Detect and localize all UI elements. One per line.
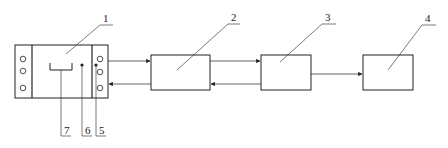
label-3: 3 bbox=[325, 11, 331, 23]
label-2: 2 bbox=[231, 11, 237, 23]
left-terminal-strip bbox=[20, 56, 26, 91]
component-2-block: 2 bbox=[151, 11, 240, 90]
bracket-element-7 bbox=[50, 63, 72, 70]
label-4: 4 bbox=[425, 12, 431, 24]
leader-1: 1 bbox=[66, 12, 113, 54]
label-7: 7 bbox=[64, 124, 70, 136]
leader-6: 6 bbox=[82, 65, 92, 136]
component-1-device bbox=[15, 45, 108, 98]
component-3-block: 3 bbox=[261, 11, 336, 90]
right-terminal-strip bbox=[97, 56, 103, 91]
label-1: 1 bbox=[103, 12, 109, 24]
leader-7: 7 bbox=[61, 70, 71, 136]
component-4-block: 4 bbox=[363, 12, 436, 90]
label-6: 6 bbox=[85, 124, 91, 136]
label-5: 5 bbox=[99, 124, 105, 136]
leader-5: 5 bbox=[96, 65, 106, 136]
block-diagram: 1 7 6 5 2 3 4 bbox=[0, 0, 448, 148]
